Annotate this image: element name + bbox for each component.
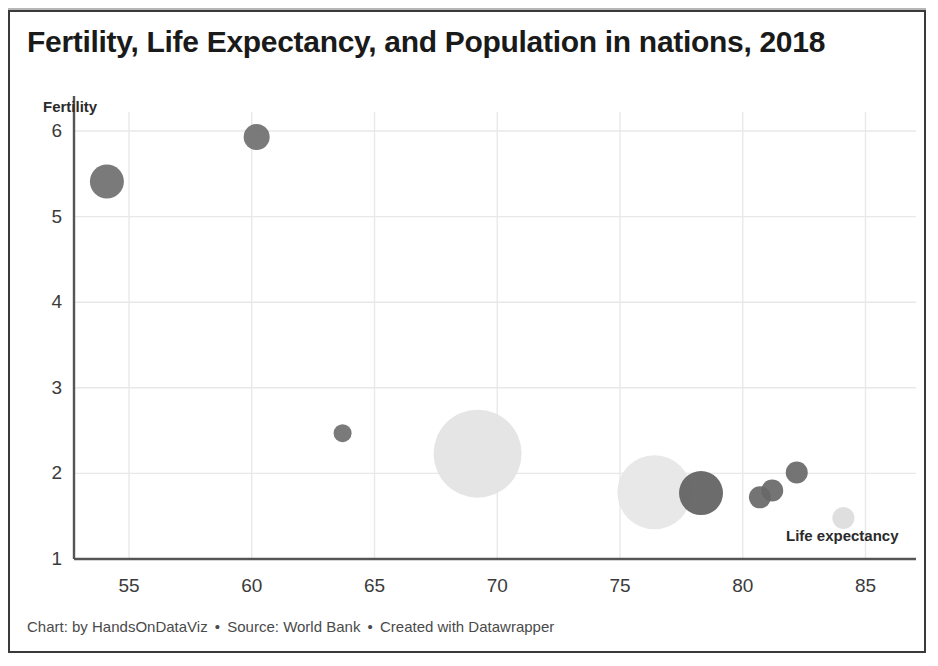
y-tick-label-3: 3 (32, 377, 62, 399)
x-axis-label: Life expectancy (786, 527, 899, 544)
y-tick-label-4: 4 (32, 291, 62, 313)
footer-tool-credit: Created with Datawrapper (380, 618, 554, 635)
x-tick-label-70: 70 (472, 575, 522, 597)
x-tick-label-80: 80 (718, 575, 768, 597)
x-tick-label-55: 55 (104, 575, 154, 597)
bubble-point-9 (832, 507, 854, 529)
y-tick-label-6: 6 (32, 120, 62, 142)
footer-source-credit: Source: World Bank (227, 618, 360, 635)
footer-separator-2: • (365, 618, 376, 635)
y-axis-label: Fertility (43, 98, 97, 115)
bubble-point-2 (334, 424, 352, 442)
bubble-point-7 (761, 480, 783, 502)
x-tick-label-60: 60 (227, 575, 277, 597)
footer-chart-credit: Chart: by HandsOnDataViz (27, 618, 208, 635)
bubble-chart: 123456 55606570758085 Fertility Life exp… (0, 0, 938, 666)
x-tick-label-85: 85 (841, 575, 891, 597)
y-tick-label-1: 1 (32, 548, 62, 570)
y-tick-label-2: 2 (32, 462, 62, 484)
bubble-point-8 (786, 462, 808, 484)
bubble-point-3 (434, 410, 522, 498)
footer-separator-1: • (212, 618, 223, 635)
x-tick-label-75: 75 (595, 575, 645, 597)
screenshot-page: Fertility, Life Expectancy, and Populati… (0, 0, 938, 666)
bubble-point-5 (679, 471, 723, 515)
chart-footer: Chart: by HandsOnDataViz • Source: World… (27, 618, 554, 635)
x-tick-label-65: 65 (350, 575, 400, 597)
bubble-point-1 (244, 124, 270, 150)
bubble-point-0 (90, 165, 124, 199)
y-tick-label-5: 5 (32, 206, 62, 228)
bubble-series (90, 124, 855, 529)
chart-plot-svg (0, 0, 938, 666)
